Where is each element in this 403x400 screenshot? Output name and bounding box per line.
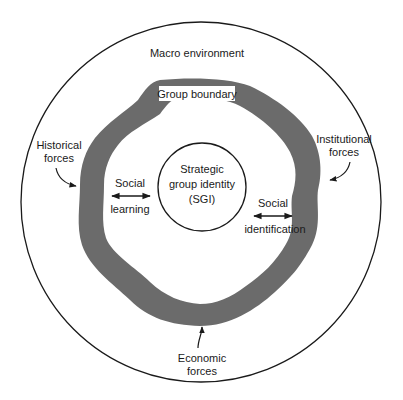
historical-forces-label-line1: Historical bbox=[36, 139, 81, 151]
historical-forces-arrow bbox=[56, 168, 76, 186]
group-boundary-label: Group boundary bbox=[157, 88, 237, 100]
institutional-forces-label-line1: Institutional bbox=[316, 133, 372, 145]
sgi-label-line2: group identity bbox=[169, 178, 236, 190]
historical-forces-label-line2: forces bbox=[44, 152, 74, 164]
social-identification-label-line1: Social bbox=[258, 197, 288, 209]
economic-forces-arrow bbox=[198, 327, 202, 348]
economic-forces-label-line1: Economic bbox=[178, 352, 227, 364]
sgi-label-line3: (SGI) bbox=[189, 193, 215, 205]
social-learning-label-line2: learning bbox=[110, 203, 149, 215]
social-learning-label-line1: Social bbox=[115, 177, 145, 189]
economic-forces-label-line2: forces bbox=[187, 365, 217, 377]
sgi-label-line1: Strategic bbox=[180, 163, 224, 175]
strategic-group-diagram: Group boundary Macro environment Strateg… bbox=[0, 0, 403, 400]
macro-environment-label: Macro environment bbox=[150, 47, 244, 59]
institutional-forces-arrow bbox=[330, 162, 350, 180]
social-identification-label-line2: identification bbox=[244, 223, 305, 235]
institutional-forces-label-line2: forces bbox=[329, 146, 359, 158]
